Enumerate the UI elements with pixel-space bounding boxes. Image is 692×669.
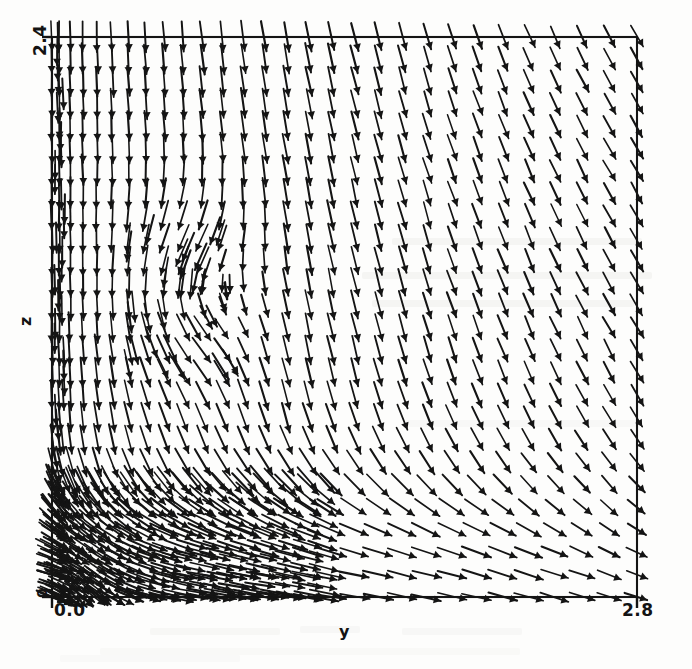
x-axis-label: y xyxy=(339,622,349,641)
vector-field-figure: 0.0 2.8 2.4 0 y z xyxy=(0,0,692,669)
y-axis-max-tick-label: 2.4 xyxy=(30,24,50,56)
x-axis-min-tick-label: 0.0 xyxy=(54,600,86,620)
y-axis-min-tick-label: 0 xyxy=(34,588,50,598)
quiver-plot-canvas xyxy=(0,0,692,669)
x-axis-max-tick-label: 2.8 xyxy=(622,600,654,620)
y-axis-label: z xyxy=(16,317,35,326)
